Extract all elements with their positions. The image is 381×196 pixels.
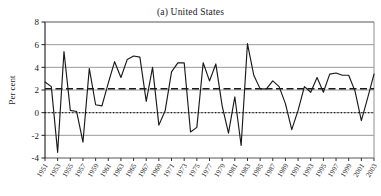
y-axis-tick-label: 2 [35,85,40,95]
x-axis-tick-label: 2001 [352,162,367,179]
x-axis-tick-label: 1973 [175,162,190,179]
x-axis-tick-label: 1991 [289,162,304,179]
y-axis-tick-label: 4 [35,63,40,73]
x-axis-tick-label: 1969 [149,162,164,179]
x-axis-tick-label: 1979 [213,162,228,179]
y-axis-tick-label: 8 [35,17,40,27]
x-axis-tick-label: 1987 [263,162,278,179]
x-axis-tick-label: 1989 [276,162,291,179]
x-axis-tick-label: 1999 [339,162,354,179]
x-axis-tick-label: 1955 [61,162,76,179]
x-axis-tick-label: 1953 [48,162,63,179]
x-axis-tick-label: 1971 [162,162,177,179]
x-axis-tick-label: 1959 [86,162,101,179]
x-axis-tick-label: 1995 [314,162,329,179]
x-axis-tick-label: 1961 [99,162,114,179]
x-axis-tick-label: 1985 [251,162,266,179]
x-axis-tick-label: 1981 [225,162,240,179]
x-axis-tick-label: 1993 [301,162,316,179]
data-line-series [45,44,374,153]
x-axis-tick-label: 1951 [35,162,50,179]
y-axis-tick-label: -2 [32,131,40,141]
y-axis-tick-label: 6 [35,40,40,50]
x-axis-tick-label: 1967 [137,162,152,179]
x-axis-tick-label: 1975 [187,162,202,179]
x-axis-tick-label: 1997 [327,162,342,179]
x-axis-tick-label: 1963 [111,162,126,179]
x-axis-tick-label: 1957 [73,162,88,179]
x-axis-tick-label: 1977 [200,162,215,179]
x-axis-tick-label: 2003 [364,162,379,179]
y-axis-title: Per cent [7,75,17,105]
y-axis-tick-label: 0 [35,108,40,118]
y-axis-tick-label: -4 [32,153,40,163]
x-axis-tick-label: 1965 [124,162,139,179]
line-chart-plot: -4-202468Per cent19511953195519571959196… [0,0,381,196]
chart-figure: (a) United States -4-202468Per cent19511… [0,0,381,196]
x-axis-tick-label: 1983 [238,162,253,179]
